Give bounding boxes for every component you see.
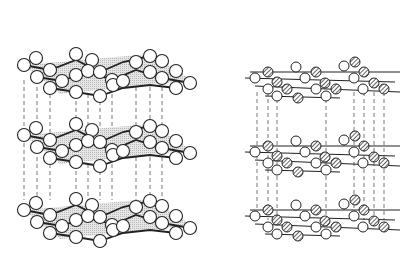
crystal-structure-figure xyxy=(0,0,412,255)
carbon-atom xyxy=(70,156,83,169)
carbon-atom xyxy=(44,227,57,240)
carbon-atom xyxy=(30,197,43,210)
carbon-atom xyxy=(156,125,169,138)
carbon-atom xyxy=(170,210,183,223)
boron-atom xyxy=(300,147,310,157)
nitrogen-atom xyxy=(379,222,389,232)
nitrogen-atom xyxy=(311,141,321,151)
nitrogen-atom xyxy=(350,131,360,141)
nitrogen-atom xyxy=(272,151,282,161)
nitrogen-atom xyxy=(369,152,379,162)
carbon-atom xyxy=(184,77,197,90)
carbon-atom xyxy=(31,71,44,84)
carbon-atom xyxy=(184,222,197,235)
carbon-atom xyxy=(44,82,57,95)
carbon-atom xyxy=(82,210,95,223)
carbon-atom xyxy=(31,216,44,229)
nitrogen-atom xyxy=(282,222,292,232)
carbon-atom xyxy=(70,139,83,152)
boron-atom xyxy=(339,61,349,71)
carbon-atom xyxy=(70,193,83,206)
graphite-layer xyxy=(18,118,197,173)
nitrogen-atom xyxy=(263,67,273,77)
nitrogen-atom xyxy=(359,205,369,215)
boron-atom xyxy=(300,73,310,83)
nitrogen-atom xyxy=(293,167,303,177)
carbon-atom xyxy=(94,235,107,248)
nitrogen-atom xyxy=(350,195,360,205)
carbon-atom xyxy=(82,135,95,148)
graphite-structure xyxy=(18,48,197,248)
graphite-layer xyxy=(18,193,197,248)
carbon-atom xyxy=(130,56,143,69)
nitrogen-atom xyxy=(331,84,341,94)
boron-atom xyxy=(250,147,260,157)
boron-atom xyxy=(321,229,331,239)
boron-atom xyxy=(300,211,310,221)
carbon-atom xyxy=(156,200,169,213)
boron-atom xyxy=(349,211,359,221)
carbon-atom xyxy=(18,204,31,217)
carbon-atom xyxy=(117,145,130,158)
carbon-atom xyxy=(156,72,169,85)
nitrogen-atom xyxy=(293,231,303,241)
boron-atom xyxy=(272,229,282,239)
carbon-atom xyxy=(44,152,57,165)
lattice-diagram xyxy=(0,0,412,255)
nitrogen-atom xyxy=(379,84,389,94)
carbon-atom xyxy=(144,66,157,79)
nitrogen-atom xyxy=(331,222,341,232)
carbon-atom xyxy=(94,66,107,79)
carbon-atom xyxy=(144,136,157,149)
carbon-atom xyxy=(144,211,157,224)
nitrogen-atom xyxy=(369,216,379,226)
carbon-atom xyxy=(56,75,69,88)
carbon-atom xyxy=(117,220,130,233)
carbon-atom xyxy=(144,120,157,133)
nitrogen-atom xyxy=(263,141,273,151)
boron-atom xyxy=(358,84,368,94)
carbon-atom xyxy=(56,145,69,158)
nitrogen-atom xyxy=(359,67,369,77)
carbon-atom xyxy=(18,129,31,142)
carbon-atom xyxy=(94,211,107,224)
boron-atom xyxy=(311,222,321,232)
carbon-atom xyxy=(117,75,130,88)
carbon-atom xyxy=(70,86,83,99)
boron-atom xyxy=(291,62,301,72)
nitrogen-atom xyxy=(369,78,379,88)
carbon-atom xyxy=(82,65,95,78)
boron-atom xyxy=(358,222,368,232)
carbon-atom xyxy=(94,136,107,149)
boron-atom xyxy=(263,158,273,168)
carbon-atom xyxy=(130,201,143,214)
nitrogen-atom xyxy=(293,93,303,103)
carbon-atom xyxy=(70,231,83,244)
boron-atom xyxy=(272,91,282,101)
carbon-atom xyxy=(144,195,157,208)
nitrogen-atom xyxy=(320,216,330,226)
nitrogen-atom xyxy=(311,67,321,77)
carbon-atom xyxy=(44,64,57,77)
carbon-atom xyxy=(170,135,183,148)
carbon-atom xyxy=(94,90,107,103)
graphite-layer xyxy=(18,48,197,103)
carbon-atom xyxy=(156,142,169,155)
boron-atom xyxy=(250,73,260,83)
boron-atom xyxy=(339,135,349,145)
boron-atom xyxy=(358,158,368,168)
nitrogen-atom xyxy=(350,57,360,67)
carbon-atom xyxy=(70,118,83,131)
nitrogen-atom xyxy=(272,215,282,225)
carbon-atom xyxy=(30,52,43,65)
nitrogen-atom xyxy=(272,77,282,87)
carbon-atom xyxy=(70,214,83,227)
carbon-atom xyxy=(70,48,83,61)
boron-atom xyxy=(349,73,359,83)
boron-atom xyxy=(291,136,301,146)
carbon-atom xyxy=(170,65,183,78)
nitrogen-atom xyxy=(282,84,292,94)
boron-atom xyxy=(250,211,260,221)
carbon-atom xyxy=(44,134,57,147)
carbon-atom xyxy=(44,209,57,222)
